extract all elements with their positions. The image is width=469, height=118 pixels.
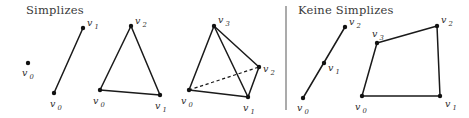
simplex-segment-1-simplex: v0v1 <box>50 17 99 112</box>
vertex-label-sub-v1: 1 <box>251 108 255 116</box>
vertex-point-v1 <box>246 95 250 99</box>
edge-v2-v3 <box>377 26 437 43</box>
edge-v0-v3 <box>189 26 214 90</box>
vertex-label-v2: v <box>349 16 355 27</box>
edge-v2-v3 <box>214 26 259 67</box>
vertex-label-v2: v <box>135 15 141 26</box>
vertex-label-sub-v0: 0 <box>101 101 106 109</box>
edge-v1-v3 <box>214 26 248 97</box>
hidden-edge-v0-v2 <box>189 67 259 90</box>
simplex-quadrilateral: v0v1v2v3 <box>355 14 457 115</box>
simplex-triangle-2-simplex: v0v1v2 <box>93 15 167 114</box>
simplex-tetrahedron-3-simplex: v0v1v2v3 <box>181 14 275 116</box>
vertex-point-v0 <box>301 96 305 100</box>
vertex-label-v3: v <box>218 14 224 25</box>
vertex-label-sub-v0: 0 <box>363 107 368 115</box>
vertex-label-v0: v <box>22 67 28 78</box>
vertex-label-sub-v2: 2 <box>142 21 147 29</box>
vertex-point-v2 <box>435 24 439 28</box>
vertex-point-v1 <box>322 61 326 65</box>
simplex-point-0-simplex: v0 <box>22 61 35 81</box>
vertex-label-sub-v0: 0 <box>305 108 310 116</box>
vertex-label-sub-v2: 2 <box>356 22 361 30</box>
vertex-label-sub-v3: 3 <box>226 20 230 28</box>
vertex-label-v0: v <box>297 102 303 113</box>
vertex-label-v0: v <box>181 95 187 106</box>
vertex-point-v0 <box>187 88 191 92</box>
vertex-label-v1: v <box>243 102 249 113</box>
vertex-label-sub-v2: 2 <box>270 69 275 77</box>
edge-v1-v2 <box>131 26 160 95</box>
vertex-label-v1: v <box>155 100 161 111</box>
vertex-label-sub-v1: 1 <box>453 104 457 112</box>
vertex-point-v0 <box>26 61 30 65</box>
vertex-point-v1 <box>158 93 162 97</box>
edge-v1-v2 <box>437 26 440 96</box>
panel-keine-simplizes: Keine Simplizesv0v1v2v0v1v2v3 <box>297 3 457 116</box>
vertex-label-v1: v <box>87 17 93 28</box>
simplex-illustration-figure: Simplizesv0v0v1v0v1v2v0v1v2v3Keine Simpl… <box>0 0 469 118</box>
edge-v0-v1 <box>189 90 248 97</box>
vertex-label-sub-v0: 0 <box>58 104 63 112</box>
edge-v0-v1 <box>54 28 83 93</box>
panel-simplizes: Simplizesv0v0v1v0v1v2v0v1v2v3 <box>22 3 275 116</box>
vertex-point-v1 <box>81 26 85 30</box>
vertex-label-v2: v <box>441 14 447 25</box>
figure-canvas: Simplizesv0v0v1v0v1v2v0v1v2v3Keine Simpl… <box>0 0 469 118</box>
vertex-label-v3: v <box>372 28 378 39</box>
vertex-label-sub-v0: 0 <box>189 101 194 109</box>
vertex-point-v1 <box>438 94 442 98</box>
vertex-label-sub-v3: 3 <box>380 34 384 42</box>
edge-v1-v2 <box>248 67 259 97</box>
vertex-label-sub-v0: 0 <box>30 73 35 81</box>
vertex-label-sub-v1: 1 <box>336 68 340 76</box>
edge-v3-v0 <box>362 43 377 96</box>
vertex-point-v3 <box>212 24 216 28</box>
vertex-point-v0 <box>360 94 364 98</box>
panel-title-keine-simplizes: Keine Simplizes <box>298 3 394 17</box>
vertex-label-v1: v <box>445 98 451 109</box>
edge-v0-v1 <box>100 90 160 95</box>
vertex-point-v2 <box>129 24 133 28</box>
vertex-label-v0: v <box>50 98 56 109</box>
vertex-label-v0: v <box>93 95 99 106</box>
panel-title-simplizes: Simplizes <box>26 3 84 17</box>
vertex-label-sub-v1: 1 <box>163 106 167 114</box>
vertex-point-v2 <box>343 25 347 29</box>
vertex-label-v0: v <box>355 101 361 112</box>
vertex-label-sub-v2: 2 <box>448 20 453 28</box>
vertex-point-v0 <box>52 91 56 95</box>
vertex-point-v0 <box>98 88 102 92</box>
vertex-label-sub-v1: 1 <box>95 23 99 31</box>
vertex-label-v1: v <box>328 62 334 73</box>
vertex-point-v2 <box>257 65 261 69</box>
vertex-label-v2: v <box>263 63 269 74</box>
simplex-degenerate-collinear-segment: v0v1v2 <box>297 16 361 116</box>
edge-v2-v0 <box>100 26 131 90</box>
